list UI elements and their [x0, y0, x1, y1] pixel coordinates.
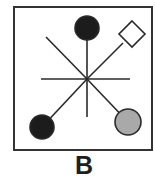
- spoke-diag-to-diamond: [87, 43, 123, 79]
- bottom-right-gray-circle-icon: [115, 109, 141, 135]
- spoke-diag-top-left: [46, 37, 87, 79]
- figure-label: B: [0, 150, 155, 180]
- top-black-circle-icon: [75, 16, 99, 40]
- bottom-left-black-circle-icon: [30, 115, 54, 139]
- spoke-lines: [41, 28, 130, 127]
